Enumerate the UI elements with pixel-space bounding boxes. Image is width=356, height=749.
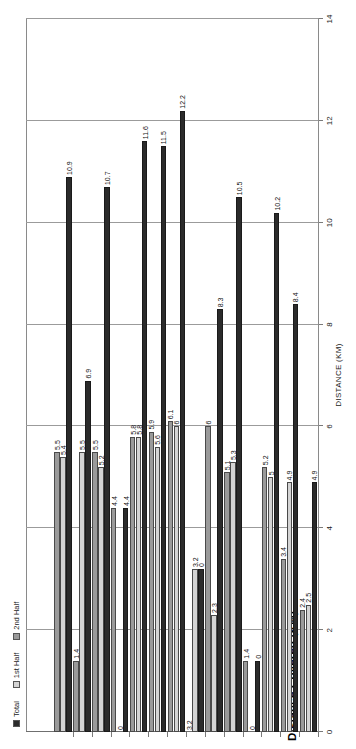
- bar-value-label: 0: [198, 563, 205, 569]
- bar-row: 6: [205, 19, 210, 732]
- category-tick: [111, 732, 112, 737]
- bar-first: [60, 457, 65, 732]
- bar-row: 5.8: [130, 19, 135, 732]
- bar-value-label: 10.9: [66, 161, 73, 177]
- bar-row: 4.9: [312, 19, 317, 732]
- bar-groups: 5.55.410.91.45.56.95.55.210.74.404.45.85…: [54, 19, 318, 732]
- chart-legend: Total1st Half2nd Half: [10, 598, 23, 731]
- bar-value-label: 10.2: [273, 197, 280, 213]
- bar-row: 10.9: [66, 19, 71, 732]
- bar-row: 5: [268, 19, 273, 732]
- value-tick-label: 4: [325, 526, 334, 530]
- bar-total: [85, 381, 90, 732]
- bar-total: [66, 177, 71, 732]
- value-tick-label: 10: [325, 218, 334, 227]
- bar-row: 10.2: [274, 19, 279, 732]
- bar-total: [161, 146, 166, 732]
- bar-row: 5.9: [149, 19, 154, 732]
- bar-row: 4.9: [287, 19, 292, 732]
- legend-swatch-icon: [13, 681, 20, 688]
- category-tick: [73, 732, 74, 737]
- bar-total: [180, 111, 185, 732]
- bar-total: [142, 141, 147, 732]
- bar-value-label: 4.4: [122, 496, 129, 508]
- value-tick: [319, 120, 323, 121]
- category-tick: [129, 732, 130, 737]
- value-tick-label: 6: [325, 424, 334, 428]
- bar-row: 2.4: [300, 19, 305, 732]
- bar-group: 5.55.210.7: [92, 19, 111, 732]
- value-tick: [319, 731, 323, 732]
- bar-group: 5.85.811.6: [129, 19, 148, 732]
- value-tick: [319, 222, 323, 223]
- bar-row: 5.4: [60, 19, 65, 732]
- bar-row: 3.4: [281, 19, 286, 732]
- bar-total: [255, 661, 260, 732]
- bar-first: [306, 605, 311, 732]
- bar-value-label: 11.6: [141, 126, 148, 141]
- bar-first: [98, 467, 103, 732]
- chart-canvas: Distance Covered (KM) Total1st Half2nd H…: [0, 0, 356, 749]
- bar-row: 8.3: [217, 19, 222, 732]
- bar-total: [104, 187, 109, 732]
- bar-total: [198, 569, 203, 732]
- bar-group: 5.95.611.5: [148, 19, 167, 732]
- bar-row: 12.2: [180, 19, 185, 732]
- category-tick: [205, 732, 206, 737]
- category-tick: [261, 732, 262, 737]
- value-tick-label: 0: [325, 730, 334, 734]
- category-tick: [186, 732, 187, 737]
- bar-total: [293, 304, 298, 732]
- category-tick: [299, 732, 300, 737]
- bar-first: [136, 437, 141, 732]
- legend-label: 1st Half: [12, 653, 21, 678]
- bar-total: [217, 309, 222, 732]
- bar-total: [312, 482, 317, 732]
- axis-title: DISTANCE (KM): [334, 18, 343, 732]
- bar-first: [211, 615, 216, 732]
- bar-group: 2.42.54.9: [299, 19, 318, 732]
- bar-row: 0: [255, 19, 260, 732]
- legend-label: 2nd Half: [12, 602, 21, 630]
- bar-row: 5.5: [54, 19, 59, 732]
- bar-group: 4.404.4: [111, 19, 130, 732]
- bar-value-label: 0: [254, 655, 261, 661]
- bar-row: 6.9: [85, 19, 90, 732]
- bar-group: 1.45.56.9: [73, 19, 92, 732]
- bar-second: [281, 559, 286, 732]
- bar-row: 5.5: [92, 19, 97, 732]
- bar-group: 5.2510.2: [261, 19, 280, 732]
- bar-row: 1.4: [73, 19, 78, 732]
- bar-value-label: 10.5: [235, 182, 242, 198]
- bar-second: [92, 452, 97, 732]
- bar-value-label: 12.2: [179, 95, 186, 111]
- category-tick: [92, 732, 93, 737]
- category-tick: [224, 732, 225, 737]
- legend-swatch-icon: [13, 720, 20, 727]
- bar-first: [268, 477, 273, 732]
- bar-row: 3.2: [192, 19, 197, 732]
- bar-group: 5.15.310.5: [224, 19, 243, 732]
- bar-row: 2.3: [211, 19, 216, 732]
- bar-value-label: 10.7: [103, 171, 110, 187]
- bar-row: 10.5: [236, 19, 241, 732]
- bar-row: 4.4: [123, 19, 128, 732]
- bar-row: 5.3: [230, 19, 235, 732]
- value-tick-label: 2: [325, 628, 334, 632]
- bar-second: [300, 610, 305, 732]
- value-tick: [319, 18, 323, 19]
- bar-group: 62.38.3: [205, 19, 224, 732]
- bar-row: 2.5: [306, 19, 311, 732]
- value-tick: [319, 425, 323, 426]
- bar-row: 1.4: [243, 19, 248, 732]
- bar-group: 5.55.410.9: [54, 19, 73, 732]
- bar-value-label: 6.9: [84, 369, 91, 381]
- bar-second: [262, 467, 267, 732]
- value-tick-label: 12: [325, 116, 334, 125]
- rotated-chart-wrapper: Distance Covered (KM) Total1st Half2nd H…: [0, 0, 356, 749]
- category-tick: [243, 732, 244, 737]
- value-tick-label: 14: [325, 15, 334, 24]
- legend-swatch-icon: [13, 633, 20, 640]
- bar-first: [79, 452, 84, 732]
- category-tick: [280, 732, 281, 737]
